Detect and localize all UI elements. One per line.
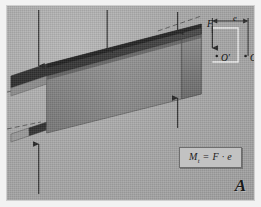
inset-force-label: F (207, 20, 213, 30)
figure-plate: F e O′ O Mt = F · e A (6, 5, 255, 201)
inset-point-o-dot (244, 55, 247, 58)
inset-point-o-label: O (250, 54, 255, 64)
figure-label: A (235, 176, 246, 196)
beam-body (11, 24, 201, 142)
inset-point-o-prime-dot (216, 55, 219, 58)
inset-point-o-prime-label: O′ (221, 54, 230, 64)
inset-eccentricity-label: e (233, 14, 237, 23)
figure-root: F e O′ O Mt = F · e A (0, 0, 261, 207)
formula-expression: F · e (212, 151, 232, 162)
formula-symbol: M (189, 151, 198, 162)
moment-formula-box: Mt = F · e (179, 147, 242, 168)
formula-subscript: t (198, 157, 200, 164)
formula-equals: = (203, 151, 210, 162)
inset-diagram (212, 18, 249, 62)
figure-frame: F e O′ O Mt = F · e A (0, 0, 261, 207)
beam-scene (7, 6, 254, 200)
